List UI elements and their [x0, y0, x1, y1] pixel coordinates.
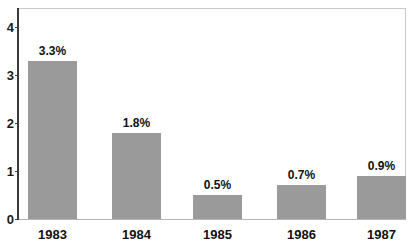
x-tick-label-1987: 1987: [349, 228, 411, 241]
x-tick-label-1986: 1986: [269, 228, 334, 241]
bar-group-1987[interactable]: 0.9%: [357, 8, 406, 219]
bar-value-label-1985: 0.5%: [193, 179, 242, 191]
bars-layer: 3.3% 1.8% 0.5% 0.7% 0.9%: [17, 8, 406, 219]
y-tick-label-0: 0: [0, 213, 14, 226]
bar-group-1986[interactable]: 0.7%: [277, 8, 326, 219]
x-axis-line: [17, 219, 406, 220]
bar-group-1984[interactable]: 1.8%: [112, 8, 161, 219]
bar-value-label-1986: 0.7%: [277, 169, 326, 181]
y-tick-mark-0: [15, 219, 19, 220]
y-tick-label-4: 4: [0, 21, 14, 34]
bar-value-label-1987: 0.9%: [357, 160, 406, 172]
bar-group-1985[interactable]: 0.5%: [193, 8, 242, 219]
bar-chart: 4 3 2 1 0 3.3% 1.8% 0.5% 0.7% 0.9% 1983 …: [0, 0, 411, 249]
bar-value-label-1984: 1.8%: [112, 117, 161, 129]
bar-value-label-1983: 3.3%: [28, 45, 77, 57]
bar-1983[interactable]: [28, 61, 77, 219]
bar-1986[interactable]: [277, 185, 326, 219]
bar-1985[interactable]: [193, 195, 242, 219]
x-tick-label-1984: 1984: [104, 228, 169, 241]
y-tick-label-3: 3: [0, 69, 14, 82]
x-tick-label-1983: 1983: [20, 228, 85, 241]
x-tick-label-1985: 1985: [185, 228, 250, 241]
bar-1987[interactable]: [357, 176, 406, 219]
bar-1984[interactable]: [112, 133, 161, 219]
y-tick-label-2: 2: [0, 117, 14, 130]
y-tick-label-1: 1: [0, 165, 14, 178]
bar-group-1983[interactable]: 3.3%: [28, 8, 77, 219]
